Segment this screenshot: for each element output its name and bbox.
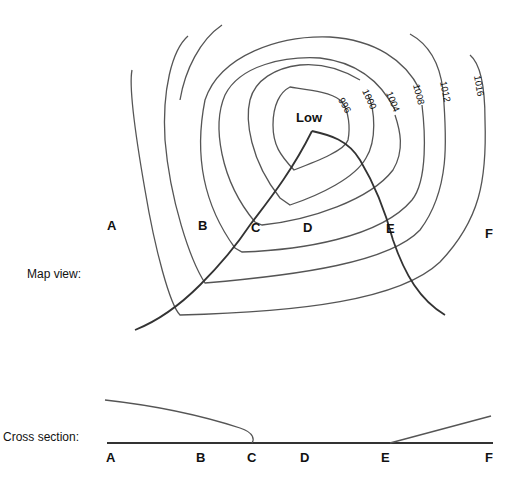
map-point-b: B bbox=[198, 218, 207, 233]
cross-point-a: A bbox=[106, 450, 116, 465]
cross-section bbox=[105, 400, 493, 443]
isobar-outer-left bbox=[180, 25, 222, 100]
isobar-1016 bbox=[131, 55, 485, 315]
cross-section-label: Cross section: bbox=[3, 430, 79, 444]
map-point-labels: A B C D E F bbox=[107, 218, 493, 241]
cross-point-d: D bbox=[300, 450, 309, 465]
cross-point-b: B bbox=[196, 450, 205, 465]
cold-front-profile bbox=[105, 400, 253, 443]
map-point-c: C bbox=[251, 220, 261, 235]
isobars bbox=[131, 25, 485, 315]
isobar-label-1008: 1008 bbox=[411, 83, 427, 106]
isobar-label-1004: 1004 bbox=[384, 90, 402, 114]
cross-point-labels: A B C D E F bbox=[106, 450, 493, 465]
isobar-labels: 996 1000 1004 1008 1012 1016 bbox=[336, 74, 486, 114]
low-pressure-label: Low bbox=[296, 110, 323, 125]
map-point-d: D bbox=[303, 220, 312, 235]
isobar-label-1016: 1016 bbox=[472, 74, 487, 97]
map-point-a: A bbox=[107, 218, 117, 233]
isobar-label-1012: 1012 bbox=[438, 80, 453, 103]
map-view-label: Map view: bbox=[27, 267, 81, 281]
map-point-e: E bbox=[386, 221, 395, 236]
cross-point-c: C bbox=[247, 450, 257, 465]
map-point-f: F bbox=[485, 226, 493, 241]
isobar-1008 bbox=[200, 37, 424, 252]
cross-point-e: E bbox=[381, 450, 390, 465]
isobar-label-996: 996 bbox=[336, 96, 353, 115]
warm-front-profile bbox=[390, 416, 491, 443]
fronts bbox=[135, 131, 445, 330]
isobar-1004 bbox=[219, 58, 400, 225]
weather-front-diagram: 996 1000 1004 1008 1012 1016 Low A B C D… bbox=[0, 0, 510, 484]
isobar-label-1000: 1000 bbox=[360, 87, 379, 111]
cross-point-f: F bbox=[485, 450, 493, 465]
